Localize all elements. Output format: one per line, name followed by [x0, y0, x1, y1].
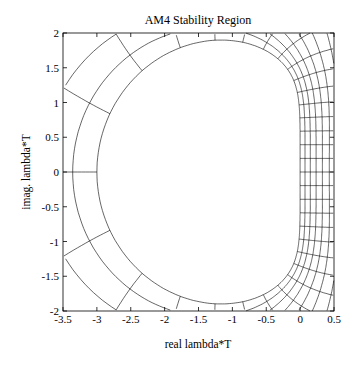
y-tick-label: -1 — [50, 236, 59, 248]
y-tick-label: -0.5 — [42, 201, 60, 213]
plot-frame — [63, 33, 334, 311]
y-tick-label: 2 — [54, 27, 60, 39]
mesh-line — [243, 302, 245, 310]
y-tick-label: 0.5 — [45, 131, 59, 143]
y-tick-label: 0 — [54, 166, 60, 178]
mesh-line — [64, 230, 110, 256]
x-tick-label: -3 — [92, 313, 102, 325]
x-tick-label: 0.5 — [327, 313, 341, 325]
x-tick-label: 0 — [297, 313, 303, 325]
mesh-line — [299, 102, 333, 105]
mesh-line — [243, 35, 245, 43]
x-tick-label: -1 — [228, 313, 237, 325]
x-tick-label: -1.5 — [190, 313, 208, 325]
mesh-line — [97, 40, 300, 304]
mesh-line — [299, 239, 333, 242]
mesh-line — [73, 33, 305, 311]
chart-title: AM4 Stability Region — [145, 13, 252, 27]
y-axis-label: imag. lambda*T — [20, 134, 33, 209]
mesh-line — [176, 35, 180, 48]
mesh-line — [294, 69, 333, 81]
x-tick-label: -0.5 — [258, 313, 276, 325]
mesh-line — [116, 273, 142, 310]
mesh-line — [176, 296, 180, 309]
mesh-line — [66, 34, 311, 310]
stability-mesh — [63, 33, 334, 311]
y-tick-label: 1 — [54, 97, 60, 109]
x-tick-label: -2.5 — [122, 313, 140, 325]
mesh-line — [116, 34, 142, 71]
y-tick-label: -1.5 — [42, 270, 60, 282]
x-tick-label: -2 — [160, 313, 169, 325]
y-tick-label: 1.5 — [45, 62, 59, 74]
x-axis-label: real lambda*T — [165, 338, 232, 350]
y-tick-label: -2 — [50, 305, 59, 317]
mesh-line — [64, 88, 110, 114]
mesh-line — [294, 263, 333, 275]
stability-region-chart: AM4 Stability Region -3.5-3-2.5-2-1.5-1-… — [0, 0, 363, 368]
